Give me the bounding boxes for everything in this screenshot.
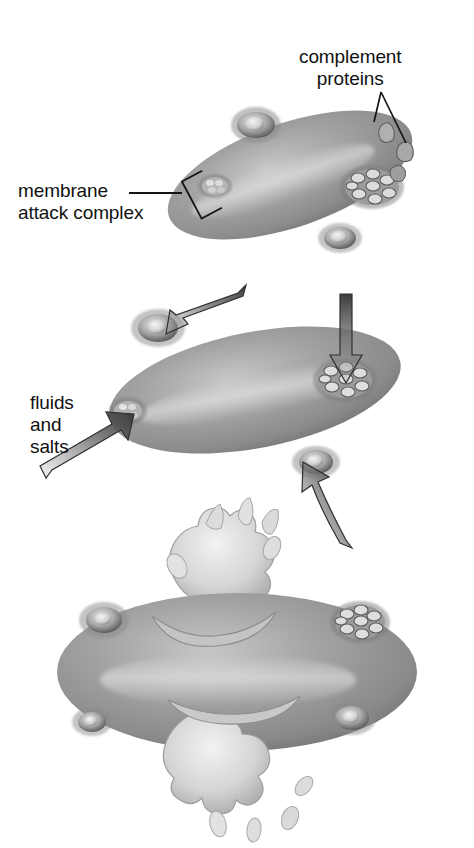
rosette-pore-icon xyxy=(330,601,390,643)
rosette-pore-icon xyxy=(198,174,232,198)
label-fluids-and-salts: fluids and salts xyxy=(30,392,74,458)
complement-protein-icon xyxy=(397,142,414,162)
influx-arrow-icon xyxy=(166,285,246,334)
stage-3-lysis xyxy=(57,498,417,843)
pore-ring-icon xyxy=(72,708,112,736)
pore-ring-icon xyxy=(79,602,129,638)
pore-ring-icon xyxy=(231,107,281,143)
pore-ring-icon xyxy=(328,701,376,735)
stage-1-binding xyxy=(129,84,428,266)
pore-ring-icon xyxy=(318,223,362,253)
complement-lysis-figure: complement proteins membrane attack comp… xyxy=(0,0,474,848)
complement-protein-icon xyxy=(379,123,395,143)
body-sheen-stage3 xyxy=(100,654,356,706)
label-complement-proteins: complement proteins xyxy=(299,46,402,90)
stage-2-influx xyxy=(40,285,411,548)
complement-protein-icon xyxy=(390,165,405,181)
label-membrane-attack-complex: membrane attack complex xyxy=(18,180,143,224)
